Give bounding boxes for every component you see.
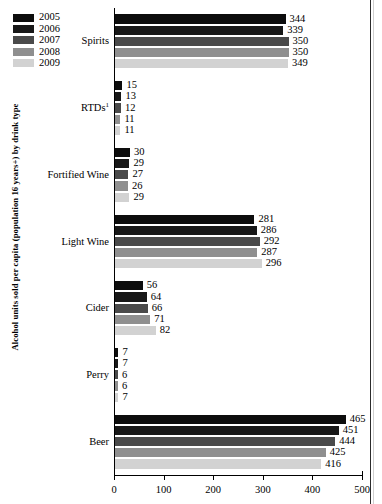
bar-2007[interactable] — [115, 370, 118, 379]
category-label-text: Fortified Wine — [48, 169, 110, 180]
category-label-text: Beer — [89, 436, 109, 447]
bar-2006[interactable] — [115, 226, 257, 235]
bar-value-label: 15 — [126, 79, 137, 90]
bar-value-label: 27 — [132, 168, 143, 179]
bar-2006[interactable] — [115, 292, 147, 301]
bar-row: 7 — [115, 392, 363, 403]
bar-value-label: 11 — [124, 113, 134, 124]
bar-2005[interactable] — [115, 215, 254, 224]
bar-value-label: 13 — [125, 90, 136, 101]
bar-value-label: 286 — [261, 224, 277, 235]
bar-2005[interactable] — [115, 148, 130, 157]
bar-2005[interactable] — [115, 281, 143, 290]
bar-value-label: 465 — [350, 413, 366, 424]
bar-value-label: 349 — [292, 57, 308, 68]
bar-row: 349 — [115, 58, 363, 69]
x-axis-tick — [362, 476, 363, 480]
bar-row: 82 — [115, 325, 363, 336]
bar-2008[interactable] — [115, 181, 128, 190]
bar-2008[interactable] — [115, 115, 120, 124]
bar-group-cider: Cider5664667182 — [115, 280, 363, 336]
category-label-text: RTDs — [81, 102, 105, 113]
bar-2007[interactable] — [115, 304, 148, 313]
x-axis-tick-label: 200 — [205, 484, 221, 495]
bar-2006[interactable] — [115, 92, 121, 101]
legend-item-label: 2007 — [39, 35, 60, 46]
bar-2005[interactable] — [115, 415, 346, 424]
bar-2008[interactable] — [115, 381, 118, 390]
bar-2009[interactable] — [115, 459, 321, 468]
legend-item-2008[interactable]: 2008 — [13, 46, 91, 57]
bar-value-label: 12 — [125, 102, 136, 113]
bar-2007[interactable] — [115, 37, 289, 46]
legend-item-label: 2005 — [39, 12, 60, 23]
x-axis-tick — [114, 476, 115, 480]
bar-2005[interactable] — [115, 81, 122, 90]
bar-row: 12 — [115, 102, 363, 113]
bar-row: 416 — [115, 458, 363, 469]
bar-value-label: 29 — [133, 157, 144, 168]
bar-value-label: 281 — [258, 213, 274, 224]
bar-2006[interactable] — [115, 359, 118, 368]
bar-2009[interactable] — [115, 326, 156, 335]
bar-2009[interactable] — [115, 259, 262, 268]
bar-2007[interactable] — [115, 170, 128, 179]
bar-2008[interactable] — [115, 315, 150, 324]
bar-group-spirits: Spirits344339350350349 — [115, 13, 363, 69]
bar-value-label: 339 — [287, 24, 303, 35]
bar-2008[interactable] — [115, 248, 257, 257]
bar-row: 350 — [115, 36, 363, 47]
bar-row: 444 — [115, 436, 363, 447]
category-label: Fortified Wine — [48, 169, 116, 180]
category-label-text: Spirits — [82, 35, 109, 46]
bar-row: 26 — [115, 180, 363, 191]
x-axis-tick — [263, 476, 264, 480]
bar-2009[interactable] — [115, 59, 288, 68]
category-label: Perry — [86, 369, 115, 380]
bar-row: 15 — [115, 80, 363, 91]
bar-2007[interactable] — [115, 103, 121, 112]
x-axis-line — [114, 475, 362, 476]
bar-2009[interactable] — [115, 193, 129, 202]
bar-2009[interactable] — [115, 393, 118, 402]
bar-2007[interactable] — [115, 237, 260, 246]
legend-item-2007[interactable]: 2007 — [13, 35, 91, 46]
bar-row: 465 — [115, 414, 363, 425]
legend-item-label: 2006 — [39, 24, 60, 35]
bar-2006[interactable] — [115, 159, 129, 168]
bar-row: 281 — [115, 214, 363, 225]
bar-value-label: 71 — [154, 313, 165, 324]
bar-row: 286 — [115, 225, 363, 236]
bar-2005[interactable] — [115, 348, 118, 357]
legend-item-2009[interactable]: 2009 — [13, 58, 91, 69]
bar-value-label: 7 — [122, 357, 127, 368]
y-axis-title-container: Alcohol units sold per capita (populatio… — [0, 0, 26, 504]
bar-row: 344 — [115, 13, 363, 24]
y-axis-title: Alcohol units sold per capita (populatio… — [10, 62, 20, 392]
bar-value-label: 56 — [147, 279, 158, 290]
bar-2006[interactable] — [115, 426, 339, 435]
bar-row: 339 — [115, 25, 363, 36]
bar-2005[interactable] — [115, 14, 286, 23]
legend-item-label: 2009 — [39, 58, 60, 69]
bar-value-label: 344 — [290, 13, 306, 24]
bar-2007[interactable] — [115, 437, 335, 446]
x-axis-tick-label: 0 — [111, 484, 116, 495]
bar-row: 30 — [115, 147, 363, 158]
legend-item-2006[interactable]: 2006 — [13, 23, 91, 34]
legend-item-2005[interactable]: 2005 — [13, 12, 91, 23]
bar-value-label: 425 — [330, 446, 346, 457]
category-label: Light Wine — [61, 236, 115, 247]
bar-value-label: 7 — [122, 346, 127, 357]
bar-2006[interactable] — [115, 26, 283, 35]
bar-2008[interactable] — [115, 48, 289, 57]
x-axis-tick — [164, 476, 165, 480]
bar-value-label: 6 — [122, 369, 127, 380]
page-edge-rule — [370, 0, 371, 504]
category-label: Cider — [86, 302, 115, 313]
bar-group-beer: Beer465451444425416 — [115, 414, 363, 470]
bar-2008[interactable] — [115, 448, 326, 457]
bar-row: 6 — [115, 369, 363, 380]
bar-group-light-wine: Light Wine281286292287296 — [115, 214, 363, 270]
bar-2009[interactable] — [115, 126, 120, 135]
